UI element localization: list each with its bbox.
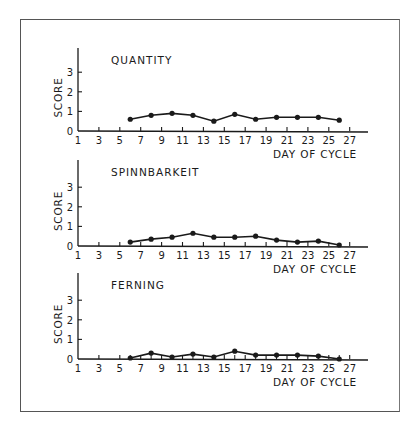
x-tick-label: 1 <box>75 363 81 374</box>
x-tick-label: 25 <box>322 250 335 261</box>
x-tick-label: 23 <box>302 363 315 374</box>
data-point <box>211 235 216 240</box>
data-point <box>128 355 133 360</box>
x-tick-label: 9 <box>158 135 164 146</box>
data-point <box>211 354 216 359</box>
y-tick-label: 2 <box>67 202 73 213</box>
y-tick-label: 3 <box>67 67 73 78</box>
y-axis-label: SCORE <box>52 191 64 231</box>
y-tick-label: 2 <box>67 315 73 326</box>
data-point <box>149 351 154 356</box>
x-tick-label: 5 <box>117 135 123 146</box>
y-tick-label: 0 <box>67 354 73 365</box>
x-tick-label: 27 <box>343 135 356 146</box>
data-point <box>149 113 154 118</box>
data-point <box>253 352 258 357</box>
x-tick-label: 19 <box>260 250 273 261</box>
y-tick-label: 3 <box>67 182 73 193</box>
data-point <box>337 118 342 123</box>
x-axis-label: DAY OF CYCLE <box>273 376 357 388</box>
x-tick-label: 19 <box>260 363 273 374</box>
chart-title: QUANTITY <box>111 54 172 66</box>
y-tick-label: 1 <box>67 334 73 345</box>
x-tick-label: 25 <box>322 135 335 146</box>
x-tick-label: 21 <box>281 135 294 146</box>
chart-title: SPINNBARKEIT <box>111 166 200 178</box>
x-tick-label: 23 <box>302 135 315 146</box>
x-tick-label: 17 <box>239 250 252 261</box>
data-point <box>232 112 237 117</box>
y-axis-label: SCORE <box>52 77 64 117</box>
x-tick-label: 5 <box>117 250 123 261</box>
data-point <box>274 115 279 120</box>
data-point <box>190 113 195 118</box>
data-point <box>169 354 174 359</box>
x-axis-label: DAY OF CYCLE <box>273 148 357 160</box>
chart-panel-spinnbarkeit: SPINNBARKEIT0123SCORE1357911131517192123… <box>52 160 368 275</box>
x-tick-label: 25 <box>322 363 335 374</box>
data-point <box>295 352 300 357</box>
data-point <box>274 238 279 243</box>
x-axis <box>78 359 368 360</box>
data-point <box>316 239 321 244</box>
x-tick-label: 21 <box>281 250 294 261</box>
x-axis-label: DAY OF CYCLE <box>273 263 357 275</box>
x-tick-label: 5 <box>117 363 123 374</box>
y-tick-label: 1 <box>67 221 73 232</box>
x-tick-label: 3 <box>96 135 102 146</box>
x-tick-label: 27 <box>343 363 356 374</box>
x-tick-label: 15 <box>218 250 231 261</box>
y-tick-label: 0 <box>67 126 73 137</box>
data-point <box>337 242 342 247</box>
y-tick-label: 2 <box>67 87 73 98</box>
y-axis-label: SCORE <box>52 304 64 344</box>
x-tick-label: 13 <box>197 135 210 146</box>
data-point <box>211 119 216 124</box>
x-axis <box>78 131 368 132</box>
chart-panel-ferning: FERNING0123SCORE13579111315171921232527D… <box>52 273 368 388</box>
data-point <box>295 239 300 244</box>
data-point <box>169 235 174 240</box>
data-point <box>232 349 237 354</box>
x-tick-label: 15 <box>218 363 231 374</box>
x-tick-label: 13 <box>197 363 210 374</box>
x-tick-label: 7 <box>138 250 144 261</box>
data-point <box>190 352 195 357</box>
x-tick-label: 3 <box>96 250 102 261</box>
x-tick-label: 27 <box>343 250 356 261</box>
x-axis <box>78 246 368 247</box>
data-point <box>232 235 237 240</box>
x-tick-label: 19 <box>260 135 273 146</box>
data-point <box>337 356 342 361</box>
data-point <box>253 234 258 239</box>
x-tick-label: 1 <box>75 250 81 261</box>
x-tick-label: 15 <box>218 135 231 146</box>
x-tick-label: 1 <box>75 135 81 146</box>
x-tick-label: 11 <box>176 135 189 146</box>
data-point <box>190 231 195 236</box>
x-tick-label: 13 <box>197 250 210 261</box>
x-tick-label: 17 <box>239 363 252 374</box>
x-tick-label: 21 <box>281 363 294 374</box>
chart-panel-quantity: QUANTITY0123SCORE13579111315171921232527… <box>52 48 368 160</box>
data-point <box>169 111 174 116</box>
chart-title: FERNING <box>111 279 165 291</box>
data-point <box>128 117 133 122</box>
data-point <box>316 353 321 358</box>
data-point <box>274 352 279 357</box>
x-tick-label: 3 <box>96 363 102 374</box>
x-tick-label: 9 <box>158 363 164 374</box>
x-tick-label: 17 <box>239 135 252 146</box>
x-tick-label: 9 <box>158 250 164 261</box>
data-point <box>253 117 258 122</box>
x-tick-label: 7 <box>138 135 144 146</box>
x-tick-label: 23 <box>302 250 315 261</box>
y-tick-label: 0 <box>67 241 73 252</box>
y-tick-label: 3 <box>67 295 73 306</box>
data-point <box>295 115 300 120</box>
charts-canvas: QUANTITY0123SCORE13579111315171921232527… <box>0 0 419 432</box>
y-tick-label: 1 <box>67 106 73 117</box>
data-point <box>149 237 154 242</box>
x-tick-label: 7 <box>138 363 144 374</box>
x-tick-label: 11 <box>176 363 189 374</box>
